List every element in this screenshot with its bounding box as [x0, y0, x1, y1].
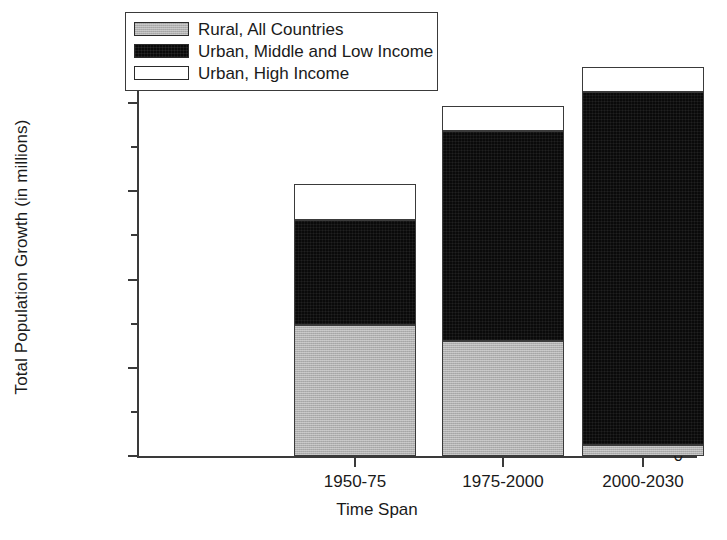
bar-segment-urban-hi-1975-2000[interactable]: [442, 106, 564, 132]
bar-segment-rural-2000-2030[interactable]: [582, 445, 704, 456]
bar-segment-urban-ml-1950-75[interactable]: [294, 220, 416, 325]
legend-item-0[interactable]: Rural, All Countries: [134, 18, 429, 40]
x-tick-1: [502, 458, 504, 467]
plot-area: 0500100015002000 1950-751975-20002000-20…: [137, 60, 697, 458]
bar-segment-urban-hi-2000-2030[interactable]: [582, 67, 704, 92]
x-tick-label-2: 2000-2030: [602, 472, 683, 492]
y-axis-title: Total Population Growth (in millions): [12, 77, 32, 437]
bar-segment-urban-ml-2000-2030[interactable]: [582, 92, 704, 445]
gray-swatch: [134, 22, 189, 36]
x-axis-title: Time Span: [287, 500, 467, 520]
x-axis-line: [137, 456, 697, 458]
y-tick-500: [128, 367, 137, 369]
y-tick-1500: [128, 190, 137, 192]
black-swatch: [134, 44, 189, 58]
y-minor-tick-1750: [131, 146, 137, 148]
x-tick-label-1: 1975-2000: [462, 472, 543, 492]
x-tick-label-0: 1950-75: [324, 472, 386, 492]
y-axis-line: [137, 60, 139, 458]
chart-legend: Rural, All CountriesUrban, Middle and Lo…: [125, 12, 438, 91]
bar-1975-2000[interactable]: [442, 106, 564, 456]
bar-segment-rural-1975-2000[interactable]: [442, 341, 564, 456]
bar-1950-75[interactable]: [294, 184, 416, 456]
bar-segment-rural-1950-75[interactable]: [294, 325, 416, 456]
bar-segment-urban-hi-1950-75[interactable]: [294, 184, 416, 220]
x-tick-2: [642, 458, 644, 467]
y-tick-1000: [128, 279, 137, 281]
legend-item-1[interactable]: Urban, Middle and Low Income: [134, 40, 429, 62]
stacked-bar-chart: Total Population Growth (in millions) Ti…: [0, 0, 727, 540]
y-minor-tick-250: [131, 411, 137, 413]
y-minor-tick-1250: [131, 234, 137, 236]
legend-label-0: Rural, All Countries: [198, 21, 344, 38]
y-minor-tick-750: [131, 323, 137, 325]
bar-segment-urban-ml-1975-2000[interactable]: [442, 131, 564, 341]
y-tick-2000: [128, 102, 137, 104]
bar-2000-2030[interactable]: [582, 67, 704, 456]
legend-item-2[interactable]: Urban, High Income: [134, 62, 429, 84]
y-tick-0: [128, 455, 137, 457]
x-tick-0: [354, 458, 356, 467]
legend-label-2: Urban, High Income: [198, 65, 349, 82]
legend-label-1: Urban, Middle and Low Income: [198, 43, 433, 60]
white-swatch: [134, 66, 189, 80]
